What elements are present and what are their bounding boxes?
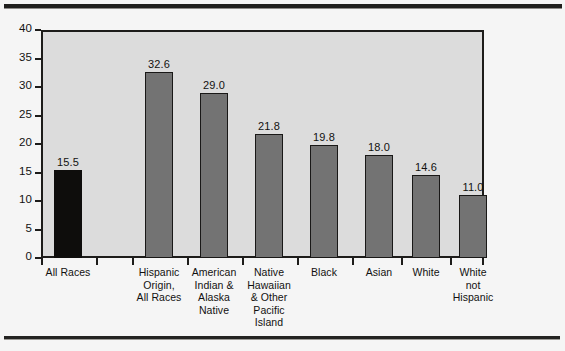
x-axis-category-label: White not Hispanic	[445, 266, 501, 304]
x-axis-category-label: White	[401, 266, 451, 279]
bar-value-label: 18.0	[368, 141, 390, 153]
bar: 18.0	[365, 155, 393, 258]
x-axis-category-label: All Races	[25, 266, 111, 279]
x-axis-tick-mark	[450, 258, 452, 265]
bar-value-label: 29.0	[203, 79, 225, 91]
y-axis: 0510152025303540	[0, 0, 41, 351]
bar: 21.8	[255, 134, 283, 258]
page-rule-top	[4, 4, 562, 8]
x-axis-tick-mark	[297, 258, 299, 265]
bar-value-label: 14.6	[415, 161, 437, 173]
bar-value-label: 32.6	[148, 58, 170, 70]
bars-layer: 15.532.629.021.819.818.014.611.0	[41, 30, 484, 258]
x-axis-category-label: Asian	[354, 266, 404, 279]
bar: 11.0	[459, 195, 487, 258]
x-axis-category-label: Hispanic Origin, All Races	[132, 266, 186, 304]
bar: 14.6	[412, 175, 440, 258]
bar: 32.6	[145, 72, 173, 258]
y-axis-tick-label: 0	[26, 250, 33, 262]
x-axis-tick-mark	[401, 258, 403, 265]
y-axis-tick-label: 20	[19, 136, 32, 148]
figure-bar-chart: 0510152025303540 15.532.629.021.819.818.…	[0, 0, 565, 351]
x-axis-tick-mark	[132, 258, 134, 265]
x-axis-tick-mark	[482, 258, 484, 265]
y-axis-tick-label: 30	[19, 79, 32, 91]
x-axis-tick-mark	[41, 258, 43, 265]
y-axis-tick-label: 40	[19, 22, 32, 34]
x-axis-category-label: Black	[297, 266, 351, 279]
x-axis-tick-mark	[352, 258, 354, 265]
bar-value-label: 15.5	[57, 156, 79, 168]
x-axis-category-label: American Indian & Alaska Native	[187, 266, 241, 316]
x-axis-tick-mark	[187, 258, 189, 265]
y-axis-tick-label: 15	[19, 165, 32, 177]
bar-value-label: 21.8	[258, 120, 280, 132]
y-axis-tick-label: 10	[19, 193, 32, 205]
x-axis-ticks	[41, 258, 484, 266]
y-axis-tick-label: 5	[26, 222, 33, 234]
bar-value-label: 11.0	[463, 181, 484, 193]
x-axis-tick-mark	[242, 258, 244, 265]
bar-value-label: 19.8	[313, 131, 335, 143]
y-axis-tick-label: 25	[19, 108, 32, 120]
page-rule-bottom	[4, 336, 560, 339]
bar: 15.5	[54, 170, 82, 258]
bar: 19.8	[310, 145, 338, 258]
y-axis-tick-label: 35	[19, 51, 32, 63]
x-axis-tick-mark	[96, 258, 98, 265]
bar: 29.0	[200, 93, 228, 258]
x-axis-category-label: Native Hawaiian & Other Pacific Island	[242, 266, 296, 329]
